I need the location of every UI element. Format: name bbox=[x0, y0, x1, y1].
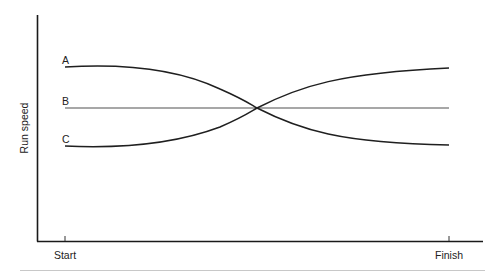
x-tick-start: Start bbox=[54, 249, 76, 261]
x-tick-finish: Finish bbox=[435, 249, 463, 261]
series-c-line bbox=[65, 68, 449, 147]
run-speed-chart: Start Finish Run speed A B C bbox=[0, 0, 501, 279]
series-c-label: C bbox=[62, 133, 70, 145]
series-b-label: B bbox=[62, 95, 69, 107]
series-a-label: A bbox=[62, 54, 69, 66]
y-axis-label: Run speed bbox=[18, 102, 30, 153]
series-a-line bbox=[65, 66, 449, 145]
